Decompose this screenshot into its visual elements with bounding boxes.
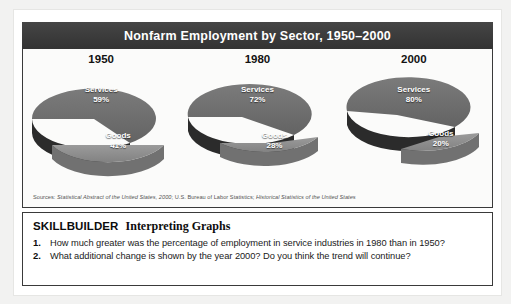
pie-cell-1980: Services 72% Goods 28%	[179, 69, 335, 177]
slice-name: Services	[85, 85, 118, 94]
pie-chart-1980: Services 72% Goods 28%	[182, 71, 332, 177]
slice-label-services-1950: Services 59%	[60, 85, 142, 105]
slice-value: 59%	[93, 95, 109, 104]
pie-chart-2000: Services 80% Goods 20%	[339, 71, 489, 177]
pie-charts-row: Services 59% Goods 41%	[23, 69, 492, 177]
question-number: 1.	[33, 237, 50, 248]
skillbuilder-label: SKILLBUILDER	[33, 220, 119, 232]
slice-value: 72%	[249, 95, 265, 104]
question-text: What additional change is shown by the y…	[50, 250, 411, 262]
chart-title: Nonfarm Employment by Sector, 1950–2000	[124, 29, 391, 43]
chart-panel: Nonfarm Employment by Sector, 1950–2000 …	[22, 22, 493, 208]
question-number: 2.	[33, 250, 50, 261]
sources-item-3: Historical Statistics of the United Stat…	[256, 194, 356, 200]
skillbuilder-subtitle: Interpreting Graphs	[126, 219, 231, 233]
slice-value: 28%	[266, 141, 282, 150]
figure-card: Nonfarm Employment by Sector, 1950–2000 …	[14, 10, 501, 295]
slice-name: Services	[241, 85, 274, 94]
pie-cell-2000: Services 80% Goods 20%	[336, 69, 492, 177]
sources-item-1: Statistical Abstract of the United State…	[57, 194, 171, 200]
skillbuilder-question-1: 1. How much greater was the percentage o…	[33, 237, 482, 249]
skillbuilder-question-2: 2. What additional change is shown by th…	[33, 250, 482, 262]
slice-label-services-1980: Services 72%	[216, 85, 298, 105]
slice-value: 20%	[433, 139, 449, 148]
pie-chart-1950: Services 59% Goods 41%	[26, 71, 176, 177]
skillbuilder-panel: SKILLBUILDERInterpreting Graphs 1. How m…	[22, 212, 493, 286]
slice-label-goods-1980: Goods 28%	[234, 131, 314, 151]
slice-name: Services	[397, 85, 430, 94]
skillbuilder-heading: SKILLBUILDERInterpreting Graphs	[33, 219, 482, 234]
sources-item-2: U.S. Bureau of Labor Statistics	[175, 194, 253, 200]
slice-name: Goods	[428, 129, 453, 138]
slice-name: Goods	[262, 131, 287, 140]
slice-value: 80%	[406, 95, 422, 104]
slice-label-services-2000: Services 80%	[373, 85, 455, 105]
slice-label-goods-2000: Goods 20%	[401, 129, 481, 149]
question-text: How much greater was the percentage of e…	[50, 237, 445, 249]
slice-name: Goods	[105, 131, 130, 140]
sources-note: Sources: Statistical Abstract of the Uni…	[33, 194, 484, 200]
sources-prefix: Sources:	[33, 194, 57, 200]
chart-title-bar: Nonfarm Employment by Sector, 1950–2000	[22, 22, 493, 49]
slice-label-goods-1950: Goods 41%	[78, 131, 158, 151]
page-root: Nonfarm Employment by Sector, 1950–2000 …	[0, 0, 511, 304]
pie-cell-1950: Services 59% Goods 41%	[23, 69, 179, 177]
slice-value: 41%	[110, 141, 126, 150]
